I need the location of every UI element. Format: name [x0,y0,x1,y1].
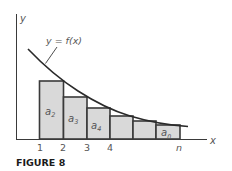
tick-label-1: 1 [37,142,43,153]
curve-label: y = f(x) [45,35,82,46]
figure-8-integral-test-diagram: y x y = f(x) a2 a3 a4 an 1 2 3 4 n FIGUR… [0,0,232,171]
tick-label-3: 3 [84,142,90,153]
tick-label-n: n [176,142,182,153]
figure-caption: FIGURE 8 [16,157,66,168]
bar-a6 [133,121,156,139]
rectangles [40,81,181,139]
tick-label-2: 2 [60,142,66,153]
x-axis-label: x [209,135,216,146]
curve-label-leader [46,47,58,64]
tick-label-4: 4 [107,142,113,153]
bar-a2 [40,81,64,139]
bar-a5 [110,116,133,139]
y-axis-label: y [19,13,27,24]
